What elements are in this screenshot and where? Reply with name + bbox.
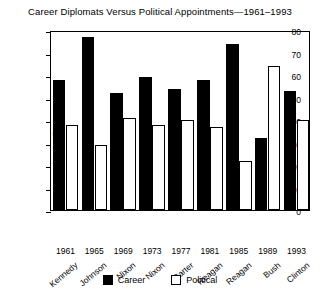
bar-career-1985: [226, 44, 239, 211]
bar-career-1989: [255, 138, 268, 210]
y-axis-tick: [46, 212, 51, 213]
chart-title: Career Diplomats Versus Political Appoin…: [0, 6, 320, 17]
chart-legend: CareerPolitical: [0, 275, 320, 285]
bar-political-1981: [210, 127, 223, 210]
chart-figure: Career Diplomats Versus Political Appoin…: [0, 0, 320, 299]
bar-political-1965: [95, 145, 108, 210]
bar-career-1965: [82, 37, 95, 210]
legend-item-career[interactable]: Career: [103, 275, 146, 285]
bar-political-1973: [152, 125, 165, 211]
x-axis-year-label: 1989: [258, 246, 277, 256]
bar-career-1961: [53, 80, 66, 211]
legend-item-political[interactable]: Political: [171, 275, 217, 285]
bar-political-1977: [181, 120, 194, 210]
legend-label: Political: [186, 275, 217, 285]
x-axis-year-label: 1965: [85, 246, 104, 256]
bar-political-1989: [268, 66, 281, 210]
bar-career-1993: [284, 91, 297, 210]
x-axis-year-label: 1973: [143, 246, 162, 256]
bar-career-1981: [197, 80, 210, 211]
bar-career-1973: [139, 77, 152, 210]
plot-area: [51, 32, 309, 210]
bar-political-1993: [297, 120, 310, 210]
x-axis-year-label: 1981: [200, 246, 219, 256]
x-axis-year-label: 1977: [172, 246, 191, 256]
plot-frame: Percent 01020304050607080 1961Kennedy196…: [50, 31, 310, 211]
x-axis-year-label: 1985: [229, 246, 248, 256]
bar-political-1961: [66, 125, 79, 211]
legend-swatch-icon: [171, 275, 181, 285]
legend-label: Career: [118, 275, 146, 285]
x-axis-year-label: 1969: [114, 246, 133, 256]
x-axis-year-label: 1993: [287, 246, 306, 256]
legend-swatch-icon: [103, 275, 113, 285]
bar-political-1985: [239, 161, 252, 211]
bar-career-1969: [110, 93, 123, 210]
bar-career-1977: [168, 89, 181, 211]
bar-political-1969: [123, 118, 136, 210]
x-axis-year-label: 1961: [56, 246, 75, 256]
